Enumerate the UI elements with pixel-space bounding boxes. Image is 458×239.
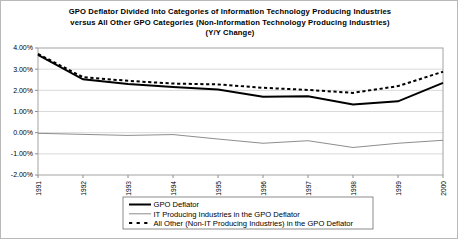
y-axis-tick-label: 3.00% [13, 66, 33, 73]
legend-label-0: GPO Deflator [154, 200, 200, 209]
x-axis-tick-label: 1991 [35, 181, 42, 196]
chart-plot: 4.00%3.00%2.00%1.00%0.00%-1.00%-2.00% 19… [1, 1, 458, 239]
legend-label-1: IT Producing Industries in the GPO Defla… [154, 210, 301, 219]
x-axis-tick-label: 2000 [440, 181, 447, 196]
x-axis-tick-label: 1996 [260, 181, 267, 196]
legend-label-2: All Other (Non-IT Producing Industries) … [154, 219, 354, 228]
y-axis-tick-label: 0.00% [13, 129, 33, 136]
y-axis-tick-label: -2.00% [11, 171, 33, 178]
x-axis-tick-label: 1994 [170, 181, 177, 196]
series-line-1 [38, 133, 443, 147]
x-axis-tick-label: 1993 [125, 181, 132, 196]
chart-figure: GPO Deflator Divided Into Categories of … [0, 0, 458, 239]
series-line-0 [38, 55, 443, 105]
x-axis-tick-label: 1997 [305, 181, 312, 196]
gridlines-group [35, 48, 443, 175]
y-axis-labels-group: 4.00%3.00%2.00%1.00%0.00%-1.00%-2.00% [11, 44, 33, 178]
x-axis-labels-group: 1991199219931994199519961997199819992000 [35, 181, 447, 196]
chart-legend: GPO DeflatorIT Producing Industries in t… [123, 197, 373, 229]
x-axis-tick-label: 1998 [350, 181, 357, 196]
y-axis-tick-label: 2.00% [13, 87, 33, 94]
y-axis-tick-label: -1.00% [11, 150, 33, 157]
x-axis-tick-label: 1992 [80, 181, 87, 196]
series-layer [38, 54, 443, 148]
x-axis-tick-label: 1999 [395, 181, 402, 196]
x-axis-tick-label: 1995 [215, 181, 222, 196]
y-axis-tick-label: 1.00% [13, 108, 33, 115]
y-axis-tick-label: 4.00% [13, 44, 33, 51]
series-line-2 [38, 54, 443, 93]
